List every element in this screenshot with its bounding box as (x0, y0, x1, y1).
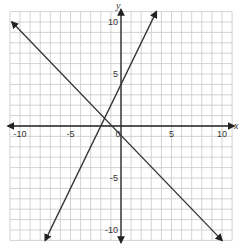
axes (8, 10, 234, 243)
x-tick-label: 5 (169, 129, 174, 139)
x-tick-label: -10 (13, 129, 26, 139)
y-tick-label: -10 (105, 225, 118, 235)
x-tick-label: 0 (115, 129, 120, 139)
coordinate-plane: -10-50510105-5-10 x y (0, 0, 242, 249)
y-tick-label: -5 (110, 173, 118, 183)
y-axis-label: y (115, 0, 121, 11)
x-axis-label: x (233, 120, 239, 131)
x-tick-label: -5 (66, 129, 74, 139)
y-tick-label: 5 (113, 69, 118, 79)
y-tick-label: 10 (108, 17, 118, 27)
x-tick-label: 10 (217, 129, 227, 139)
